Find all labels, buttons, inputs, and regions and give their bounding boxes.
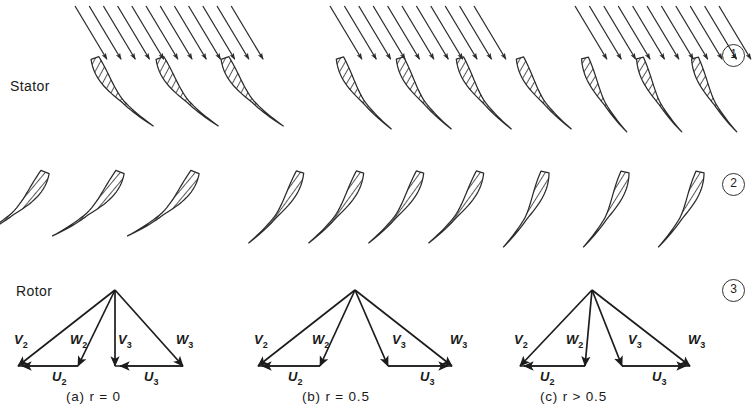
inlet-flow-arrow [388, 6, 420, 59]
velocity-triangle-group [18, 290, 690, 366]
label-V3-b: V3 [392, 332, 406, 350]
rotor-blade [309, 164, 364, 251]
label-U3-c: U3 [652, 369, 666, 387]
turbine-cascade-figure: Stator Rotor 1 2 3 (a) r = 0 (b) r = 0.5… [0, 0, 753, 412]
inlet-flow-arrow [330, 6, 362, 59]
label-U3-b: U3 [420, 369, 434, 387]
rotor-blade [0, 159, 50, 251]
vector-W3 [115, 290, 183, 366]
vector-W2 [78, 290, 115, 366]
label-V2-b: V2 [254, 332, 268, 350]
inlet-flow-arrow [118, 6, 150, 59]
stator-blade [91, 48, 154, 137]
stator-blade [456, 50, 511, 137]
label-U2-b: U2 [288, 369, 302, 387]
vector-V3 [355, 290, 388, 366]
stator-blade [581, 53, 627, 138]
inlet-flow-arrow [431, 6, 463, 59]
inlet-flow-arrow [575, 6, 607, 59]
vector-W2 [320, 290, 355, 366]
inlet-flow-arrow [146, 6, 178, 59]
inlet-flow-arrow [474, 6, 506, 59]
inlet-flow-arrow [344, 6, 376, 59]
diagram-canvas [0, 0, 753, 412]
inlet-flow-arrow [618, 6, 650, 59]
rotor-blade [583, 167, 629, 251]
inlet-flow-arrow [203, 6, 235, 59]
vector-V2 [258, 290, 355, 366]
caption-a: (a) r = 0 [66, 389, 121, 404]
caption-b: (b) r = 0.5 [302, 389, 370, 404]
rotor-blade [53, 159, 125, 251]
label-V2-c: V2 [514, 332, 528, 350]
inlet-flow-arrow [359, 6, 391, 59]
rotor-blade-group [0, 159, 705, 252]
rotor-blade [249, 164, 304, 251]
inlet-flow-arrow-group [75, 6, 751, 59]
label-W2-a: W2 [70, 332, 87, 350]
inlet-flow-arrow [647, 6, 679, 59]
label-W2-b: W2 [312, 332, 329, 350]
vector-W2 [585, 290, 592, 366]
label-U2-a: U2 [52, 369, 66, 387]
caption-c: (c) r > 0.5 [540, 389, 607, 404]
label-W3-c: W3 [688, 332, 705, 350]
inlet-flow-arrow [174, 6, 206, 59]
stator-blade [156, 48, 219, 137]
inlet-flow-arrow [690, 6, 722, 59]
station-number-2: 2 [722, 173, 745, 196]
inlet-flow-arrow [132, 6, 164, 59]
inlet-flow-arrow [89, 6, 121, 59]
label-W2-c: W2 [566, 332, 583, 350]
stator-blade [336, 50, 391, 137]
inlet-flow-arrow [402, 6, 434, 59]
vector-W3 [355, 290, 452, 366]
inlet-flow-arrow [189, 6, 221, 59]
label-W3-a: W3 [176, 332, 193, 350]
row-label-rotor: Rotor [16, 283, 52, 299]
stator-blade [396, 50, 451, 137]
inlet-flow-arrow [633, 6, 665, 59]
label-V2-a: V2 [14, 332, 28, 350]
station-number-1: 1 [722, 44, 745, 67]
rotor-blade [429, 164, 484, 251]
velocity-triangle-c [520, 290, 690, 366]
velocity-triangle-a [18, 290, 183, 366]
row-label-stator: Stator [10, 78, 50, 94]
rotor-blade [369, 164, 424, 251]
rotor-blade [503, 167, 549, 251]
label-W3-b: W3 [450, 332, 467, 350]
inlet-flow-arrow [416, 6, 448, 59]
inlet-flow-arrow [217, 6, 249, 59]
label-V3-c: V3 [628, 332, 642, 350]
stator-blade [221, 48, 284, 137]
vector-V2 [520, 290, 592, 366]
inlet-flow-arrow [460, 6, 492, 59]
inlet-flow-arrow [160, 6, 192, 59]
rotor-blade [658, 167, 704, 251]
inlet-flow-arrow [75, 6, 107, 59]
inlet-flow-arrow [231, 6, 263, 59]
inlet-flow-arrow [661, 6, 693, 59]
label-U2-c: U2 [540, 369, 554, 387]
vector-V2 [18, 290, 115, 366]
inlet-flow-arrow [445, 6, 477, 59]
label-V3-a: V3 [118, 332, 132, 350]
station-number-3: 3 [722, 279, 745, 302]
inlet-flow-arrow [103, 6, 135, 59]
velocity-triangle-b [258, 290, 452, 366]
inlet-flow-arrow [589, 6, 621, 59]
inlet-flow-arrow [676, 6, 708, 59]
rotor-blade [128, 159, 200, 251]
stator-blade-group [91, 48, 737, 137]
inlet-flow-arrow [604, 6, 636, 59]
stator-blade [516, 50, 571, 137]
stator-blade [636, 53, 682, 138]
label-U3-a: U3 [144, 369, 158, 387]
inlet-flow-arrow [373, 6, 405, 59]
